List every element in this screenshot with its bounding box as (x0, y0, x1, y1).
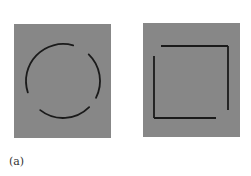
figure-canvas (0, 0, 251, 176)
panel-background (14, 24, 111, 138)
incomplete-square-panel (143, 23, 240, 137)
closure-figure: (a) (0, 0, 251, 176)
incomplete-circle-panel (14, 24, 111, 138)
panel-background (143, 23, 240, 137)
figure-caption-label: (a) (9, 155, 24, 168)
